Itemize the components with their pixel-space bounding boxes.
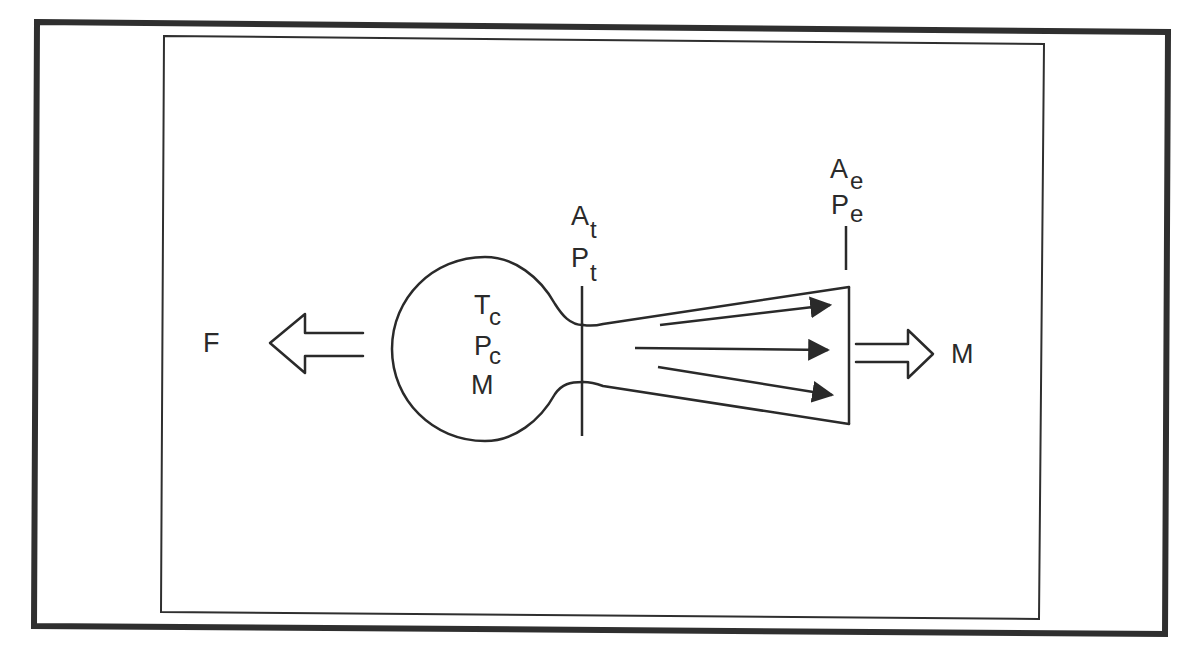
- svg-text:c: c: [489, 342, 501, 369]
- mass-flow-arrow-icon: [856, 330, 933, 378]
- svg-text:e: e: [850, 200, 863, 227]
- exit-pressure-label: P e: [831, 190, 863, 227]
- inner-frame: [161, 36, 1044, 619]
- svg-text:e: e: [850, 167, 863, 194]
- flow-arrow-bottom-icon: [658, 367, 832, 395]
- flow-arrow-top-icon: [660, 305, 830, 325]
- svg-text:c: c: [489, 303, 501, 330]
- svg-text:P: P: [571, 243, 589, 273]
- throat-area-label: A t: [571, 201, 597, 243]
- chamber-mass-label: M: [471, 370, 494, 400]
- svg-text:P: P: [831, 190, 849, 220]
- svg-text:t: t: [590, 259, 597, 286]
- svg-text:A: A: [571, 201, 589, 231]
- exit-area-label: A e: [830, 154, 863, 194]
- svg-text:t: t: [590, 216, 597, 243]
- force-label: F: [203, 328, 220, 358]
- svg-text:A: A: [830, 154, 848, 184]
- rocket-nozzle-diagram: F M T c P c M A t P t A e P e: [0, 0, 1190, 650]
- throat-pressure-label: P t: [571, 243, 597, 286]
- flow-arrow-middle-icon: [635, 348, 828, 350]
- chamber-temperature-label: T c: [474, 290, 501, 330]
- chamber-pressure-label: P c: [474, 331, 501, 369]
- exit-mass-label: M: [951, 339, 974, 369]
- nozzle-bottom-wall: [583, 382, 849, 424]
- force-arrow-icon: [270, 314, 363, 373]
